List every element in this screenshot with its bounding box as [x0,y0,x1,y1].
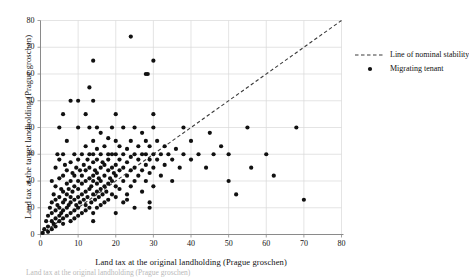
y-tick-label: 60 [19,69,35,78]
x-tick-label: 0 [31,239,51,248]
legend-symbols [355,55,385,71]
y-tick-label: 0 [19,230,35,239]
figure-caption: Land tax at the original landholding (Pr… [26,268,446,277]
y-tick-label: 70 [19,42,35,51]
y-tick-label: 80 [19,16,35,25]
x-tick-label: 60 [256,239,276,248]
x-axis-title: Land tax at the original landholding (Pr… [40,257,342,267]
legend-label-migrating-tenant: Migrating tenant [390,64,444,73]
x-tick-label: 40 [181,239,201,248]
y-tick-label: 30 [19,149,35,158]
x-tick-label: 30 [143,239,163,248]
x-tick-label: 10 [68,239,88,248]
x-tick-label: 50 [219,239,239,248]
x-tick-label: 20 [106,239,126,248]
legend-label-line-of-nominal-stability: Line of nominal stability [390,50,469,59]
x-tick-label: 70 [294,239,314,248]
y-tick-label: 20 [19,176,35,185]
y-tick-label: 50 [19,96,35,105]
x-tick-label: 80 [332,239,352,248]
y-tick-label: 10 [19,203,35,212]
y-tick-label: 40 [19,123,35,132]
